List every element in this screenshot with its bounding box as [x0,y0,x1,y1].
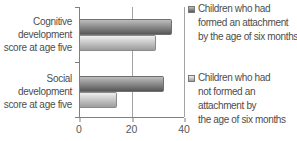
bar-cognitive-not-formed [80,35,156,51]
x-axis-tick-0 [80,118,81,122]
legend-swatch-not-formed-icon [188,75,195,82]
legend-text-not-formed: Children who had not formed an attachmen… [198,71,286,127]
y-axis-tick [75,7,79,8]
gridline-40 [184,7,185,117]
x-tick-label-0: 0 [76,123,82,135]
legend-item-formed: Children who had formed an attachment by… [188,2,297,44]
legend-line: Children who had [198,2,297,16]
category-label-social: Social development score at age five [4,72,72,111]
category-label-cognitive: Cognitive development score at age five [4,15,72,54]
legend-line: the age of six months [198,113,286,127]
legend-line: Children who had [198,71,286,85]
legend-item-not-formed: Children who had not formed an attachmen… [188,71,286,127]
bar-social-not-formed [80,92,117,108]
legend-swatch-formed-icon [188,6,195,13]
y-axis-tick [75,62,79,63]
legend-line: formed an attachment [198,16,297,30]
category-label-line: development [4,85,72,98]
legend-line: by the age of six months [198,30,297,44]
category-label-line: score at age five [4,98,72,111]
bar-cognitive-formed [80,19,172,35]
legend-line: not formed an [198,85,286,99]
x-axis-labels: 0 20 40 [79,123,184,137]
bar-social-formed [80,76,164,92]
bar-chart-figure: Cognitive development score at age five … [0,0,297,141]
category-label-line: development [4,28,72,41]
category-label-line: Cognitive [4,15,72,28]
plot-area [79,7,184,118]
category-label-line: Social [4,72,72,85]
x-axis-tick-20 [132,118,133,122]
category-label-line: score at age five [4,41,72,54]
x-tick-label-20: 20 [126,123,138,135]
legend-line: attachment by [198,99,286,113]
legend-text-formed: Children who had formed an attachment by… [198,2,297,44]
y-axis-tick [75,117,79,118]
x-axis-tick-40 [185,118,186,122]
